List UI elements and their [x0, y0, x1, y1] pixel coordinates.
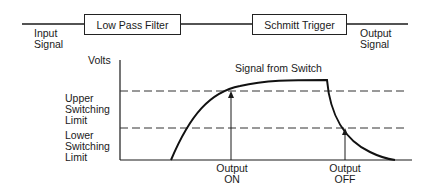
- output-on-label: Output ON: [212, 163, 252, 185]
- output-off-label: Output OFF: [325, 163, 365, 185]
- output-on-line2: ON: [212, 174, 252, 185]
- output-off-line2: OFF: [325, 174, 365, 185]
- upper-label-line3: Limit: [65, 115, 110, 126]
- curve-label: Signal from Switch: [235, 63, 322, 74]
- upper-switching-limit-label: Upper Switching Limit: [65, 93, 110, 126]
- lower-label-line3: Limit: [65, 152, 110, 163]
- schmitt-trigger-label: Schmitt Trigger: [264, 19, 335, 31]
- output-signal-label: Output Signal: [360, 28, 392, 50]
- low-pass-filter-block: Low Pass Filter: [84, 14, 181, 35]
- input-signal-label: Input Signal: [34, 28, 63, 50]
- schmitt-trigger-block: Schmitt Trigger: [252, 14, 347, 35]
- output-label-line2: Signal: [360, 39, 392, 50]
- output-on-arrowhead-icon: [228, 91, 234, 98]
- low-pass-filter-label: Low Pass Filter: [97, 19, 169, 31]
- signal-from-switch-curve: [171, 80, 395, 160]
- lower-switching-limit-label: Lower Switching Limit: [65, 130, 110, 163]
- input-label-line2: Signal: [34, 39, 63, 50]
- y-axis-label: Volts: [88, 55, 111, 66]
